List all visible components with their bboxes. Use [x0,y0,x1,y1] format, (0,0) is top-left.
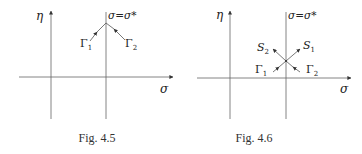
s1-label: S1 [303,39,315,54]
figure-4-5: η σ=σ* Γ1 Γ2 σ Fig. 4.5 [19,9,173,145]
caption-fig-4-6: Fig. 4.6 [235,131,272,145]
gamma2-curve [106,23,125,40]
s1-curve [286,49,300,61]
eta-label: η [216,8,224,22]
figure-4-6: η σ=σ* S2 S1 Γ1 Γ2 σ Fig. 4.6 [197,8,351,145]
sigma-star-label: σ=σ* [288,9,317,21]
caption-fig-4-5: Fig. 4.5 [78,131,115,145]
gamma2-curve [286,61,300,72]
sigma-label: σ [160,82,169,96]
sigma-star-label: σ=σ* [108,9,137,21]
gamma1-label: Γ1 [255,63,267,78]
s2-curve [273,49,286,61]
gamma1-curve [273,61,286,72]
sigma-label: σ [340,82,349,96]
gamma2-label: Γ2 [125,37,137,52]
saddle-point [285,60,287,62]
figures-canvas: η σ=σ* Γ1 Γ2 σ Fig. 4.5 η σ=σ* S2 S1 Γ1 … [0,0,362,154]
eta-label: η [36,9,44,23]
s2-label: S2 [257,41,269,56]
gamma1-curve [90,23,106,41]
gamma2-label: Γ2 [306,63,318,78]
gamma1-label: Γ1 [80,37,92,52]
